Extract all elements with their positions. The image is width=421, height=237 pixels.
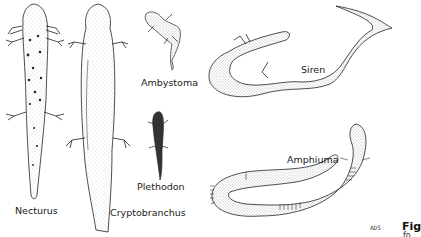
salamander-figure: Necturus Cryptobranchus Ambystoma Pletho… [0,0,421,237]
necturus-illustration [6,4,64,199]
artist-signature: ADS [370,224,381,231]
siren-illustration [209,6,392,97]
plethodon-illustration [148,112,168,180]
cryptobranchus-illustration [66,4,130,232]
amphiuma-illustration [210,124,370,216]
label-necturus: Necturus [15,205,58,216]
figure-caption-line2: fo [403,231,411,237]
label-ambystoma: Ambystoma [141,77,198,88]
label-amphiuma: Amphiuma [287,154,339,165]
label-plethodon: Plethodon [137,181,185,192]
ambystoma-illustration [145,12,180,70]
label-cryptobranchus: Cryptobranchus [110,207,186,218]
illustrations [0,0,421,237]
label-siren: Siren [301,64,325,75]
